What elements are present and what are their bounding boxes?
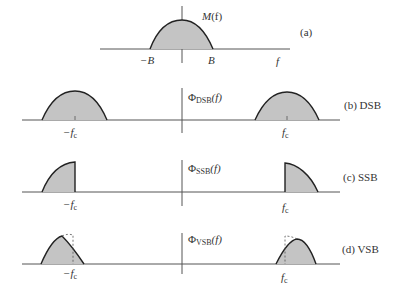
caption-b: (b) DSB xyxy=(344,100,381,111)
message-spectrum-label: M(f) xyxy=(202,11,222,22)
tick-label-pos-fc: fc xyxy=(282,202,289,215)
lower-sideband-fill xyxy=(42,162,75,192)
subscript: SSB xyxy=(196,167,210,176)
caption-a: (a) xyxy=(300,27,312,38)
symbol: Φ xyxy=(188,233,196,245)
tick-label-neg-fc: −fc xyxy=(63,127,77,140)
spectrum-diagram xyxy=(0,0,400,296)
tick-subscript: c xyxy=(285,206,289,215)
panel-a-baseband-spectrum xyxy=(100,6,290,63)
tick-subscript: c xyxy=(73,203,77,212)
tick-subscript: c xyxy=(73,272,77,281)
tick-label-neg-b: −B xyxy=(140,55,154,66)
argument: (f) xyxy=(212,91,222,103)
axis-label-f: f xyxy=(276,56,279,67)
upper-sideband-fill xyxy=(285,163,318,192)
vsb-spectrum-label: ΦVSB(f) xyxy=(188,234,222,247)
symbol: M xyxy=(202,10,211,22)
symbol: Φ xyxy=(188,162,196,174)
ssb-spectrum-label: ΦSSB(f) xyxy=(188,163,221,176)
argument: (f) xyxy=(211,10,222,22)
tick-subscript: c xyxy=(284,276,288,285)
subscript: VSB xyxy=(196,238,212,247)
dsb-spectrum-label: ΦDSB(f) xyxy=(188,92,222,105)
argument: (f) xyxy=(212,233,222,245)
caption-c: (c) SSB xyxy=(343,172,378,183)
tick-text: −f xyxy=(63,126,73,138)
subscript: DSB xyxy=(196,96,212,105)
tick-text: −f xyxy=(63,267,73,279)
upper-band-fill xyxy=(255,92,319,120)
message-spectrum-fill xyxy=(150,20,213,49)
tick-label-neg-fc: −fc xyxy=(63,199,77,212)
tick-label-b: B xyxy=(208,55,215,66)
tick-subscript: c xyxy=(285,131,289,140)
tick-label-neg-fc: −fc xyxy=(63,268,77,281)
tick-text: −f xyxy=(63,198,73,210)
tick-label-pos-fc: fc xyxy=(282,127,289,140)
tick-label-pos-fc: fc xyxy=(281,272,288,285)
argument: (f) xyxy=(210,162,220,174)
symbol: Φ xyxy=(188,91,196,103)
caption-d: (d) VSB xyxy=(342,244,379,255)
lower-band-fill xyxy=(42,91,107,120)
tick-subscript: c xyxy=(73,131,77,140)
